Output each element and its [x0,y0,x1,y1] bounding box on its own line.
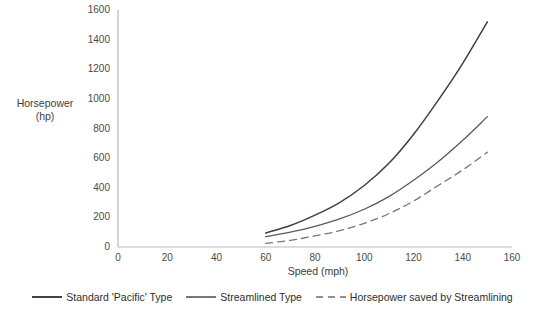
y-tick-label: 1400 [72,34,110,45]
x-tick-label: 0 [98,252,138,263]
x-tick-label: 160 [492,252,532,263]
legend-swatch-line-icon [32,292,62,302]
y-tick-label: 200 [72,211,110,222]
y-tick-label: 800 [72,123,110,134]
legend-item-label: Horsepower saved by Streamlining [350,291,513,303]
legend-item-label: Streamlined Type [220,291,302,303]
legend-item-label: Standard 'Pacific' Type [66,291,172,303]
legend-item[interactable]: Streamlined Type [186,291,302,303]
chart-container: Horsepower (hp) Speed (mph) 020040060080… [0,0,545,318]
chart-legend: Standard 'Pacific' TypeStreamlined TypeH… [0,291,545,303]
x-tick-label: 80 [295,252,335,263]
y-tick-label: 1000 [72,93,110,104]
legend-swatch-line-icon [316,292,346,302]
x-tick-label: 20 [147,252,187,263]
y-tick-label: 0 [72,241,110,252]
legend-item[interactable]: Horsepower saved by Streamlining [316,291,513,303]
y-tick-label: 400 [72,182,110,193]
x-tick-label: 60 [246,252,286,263]
series-line-0 [266,22,488,233]
legend-item[interactable]: Standard 'Pacific' Type [32,291,172,303]
y-tick-label: 1600 [72,4,110,15]
y-tick-label: 1200 [72,63,110,74]
legend-swatch-line-icon [186,292,216,302]
x-tick-label: 100 [344,252,384,263]
x-tick-label: 120 [394,252,434,263]
x-tick-label: 40 [197,252,237,263]
y-tick-label: 600 [72,152,110,163]
x-tick-label: 140 [443,252,483,263]
